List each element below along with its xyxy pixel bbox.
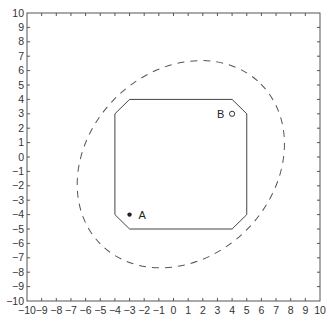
axis-tick-labels: −10−9−8−7−6−5−4−3−2−10123456789101098765… [6, 7, 326, 317]
x-tick-label: −2 [138, 304, 150, 316]
y-tick-label: −2 [12, 179, 24, 191]
dashed-ellipse [35, 18, 327, 310]
plot-frame [27, 13, 320, 301]
y-tick-label: 2 [18, 122, 24, 134]
y-tick-label: 10 [12, 7, 24, 19]
octagon-region [115, 99, 247, 229]
y-tick-label: 5 [18, 79, 24, 91]
asterisk-marker-icon [127, 212, 131, 216]
x-tick-label: 3 [215, 304, 221, 316]
chart: −10−9−8−7−6−5−4−3−2−10123456789101098765… [0, 0, 332, 325]
y-tick-label: 7 [18, 50, 24, 62]
x-tick-label: 1 [185, 304, 191, 316]
y-tick-label: −8 [12, 266, 24, 278]
x-tick-label: 8 [288, 304, 294, 316]
point-b: B [217, 108, 235, 120]
point-a: A [127, 209, 146, 221]
x-tick-label: −9 [36, 304, 48, 316]
point-b-label: B [217, 108, 224, 120]
x-tick-label: −1 [153, 304, 165, 316]
y-tick-label: −5 [12, 223, 24, 235]
y-tick-label: −10 [6, 295, 24, 307]
y-tick-label: −6 [12, 237, 24, 249]
x-tick-label: 10 [314, 304, 326, 316]
y-tick-label: −3 [12, 194, 24, 206]
x-tick-label: 9 [302, 304, 308, 316]
y-tick-label: 9 [18, 21, 24, 33]
circle-marker-icon [230, 111, 235, 116]
x-tick-label: −7 [65, 304, 77, 316]
x-tick-label: 2 [200, 304, 206, 316]
x-tick-label: −5 [94, 304, 106, 316]
x-tick-label: 5 [244, 304, 250, 316]
point-a-label: A [139, 209, 147, 221]
y-tick-label: −9 [12, 280, 24, 292]
axis-ticks [27, 13, 320, 301]
x-tick-label: 4 [229, 304, 235, 316]
x-tick-label: −4 [109, 304, 121, 316]
x-tick-label: −6 [80, 304, 92, 316]
y-tick-label: 6 [18, 64, 24, 76]
y-tick-label: 1 [18, 136, 24, 148]
y-tick-label: −1 [12, 165, 24, 177]
y-tick-label: 4 [18, 93, 24, 105]
y-tick-label: 8 [18, 35, 24, 47]
y-tick-label: −7 [12, 251, 24, 263]
y-tick-label: 3 [18, 107, 24, 119]
y-tick-label: 0 [18, 151, 24, 163]
y-tick-label: −4 [12, 208, 24, 220]
x-tick-label: −3 [124, 304, 136, 316]
x-tick-label: −8 [50, 304, 62, 316]
x-tick-label: 0 [171, 304, 177, 316]
x-tick-label: 6 [258, 304, 264, 316]
x-tick-label: 7 [273, 304, 279, 316]
